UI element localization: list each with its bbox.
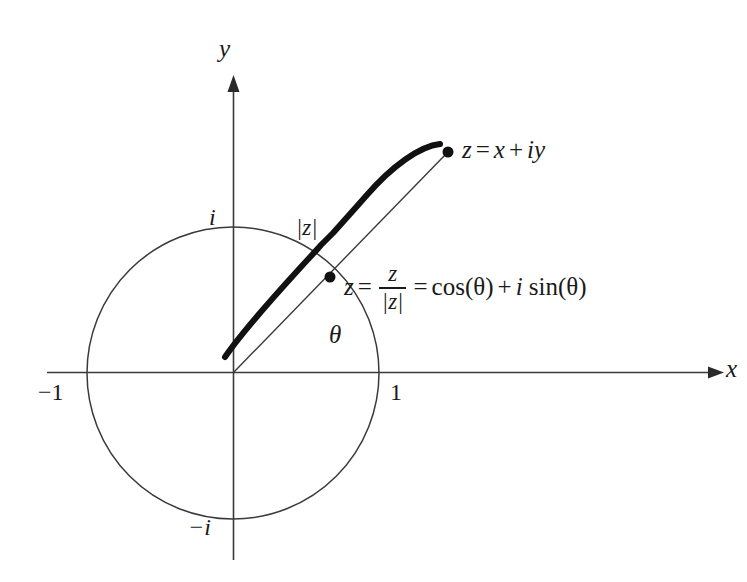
- imaginary-unit-symbol: i: [516, 273, 523, 300]
- y-axis-arrowhead: [228, 75, 240, 92]
- tick-label-negative-i: −i: [188, 515, 211, 539]
- tick-label-positive-i: i: [209, 205, 216, 229]
- fraction-denominator: |z|: [379, 290, 407, 314]
- theta-label: θ: [329, 322, 341, 347]
- iy-symbol: iy: [527, 136, 545, 163]
- equals-sign-first: =: [354, 273, 376, 300]
- z-symbol-normalized: z: [344, 273, 354, 300]
- point-label-z-normalized: z= z |z| =cos(θ)+i sin(θ): [344, 263, 587, 315]
- x-axis-label: x: [726, 356, 737, 381]
- x-symbol: x: [494, 136, 505, 163]
- z-over-abs-z-fraction: z |z|: [379, 262, 407, 314]
- x-axis-arrowhead: [708, 367, 724, 379]
- y-axis-label: y: [219, 36, 230, 61]
- point-marker-z-normalized: [325, 272, 336, 283]
- plus-sign: +: [505, 136, 527, 163]
- tick-label-positive-one: 1: [390, 380, 402, 404]
- magnitude-label: |z|: [296, 216, 318, 239]
- equals-sign: =: [472, 136, 494, 163]
- point-label-z: z=x+iy: [462, 137, 545, 162]
- fraction-numerator: z: [379, 262, 407, 286]
- z-symbol: z: [462, 136, 472, 163]
- tick-label-negative-one: −1: [38, 380, 64, 404]
- cosine-term: cos(θ): [432, 273, 494, 300]
- plus-sign-trig: +: [494, 273, 516, 300]
- point-marker-z: [443, 147, 454, 158]
- equals-sign-second: =: [409, 273, 431, 300]
- complex-plane-figure: y x −1 1 i −i |z| θ z=x+iy z= z |z| =cos…: [0, 0, 747, 582]
- sine-term: sin(θ): [529, 273, 587, 300]
